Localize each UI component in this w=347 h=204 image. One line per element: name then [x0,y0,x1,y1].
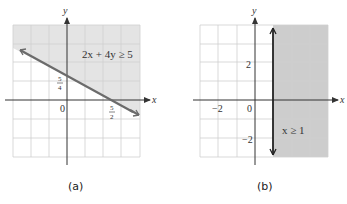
tick-label-x-neg2: −2 [212,103,223,114]
panel-a: y x 0 2x + 4y ≥ 5 5 4 5 2 (a) [5,5,157,193]
figure: y x 0 2x + 4y ≥ 5 5 4 5 2 (a) [0,0,347,204]
panel-b: y x 0 −2 2 −2 x ≥ 1 (b) [193,5,345,193]
svg-text:5: 5 [110,104,114,112]
x-axis-label-b: x [339,94,345,105]
caption-b: (b) [257,180,273,193]
shaded-region-b [273,25,328,157]
inequality-label-a: 2x + 4y ≥ 5 [82,48,133,60]
y-intercept-label-a: 5 4 [57,75,63,92]
caption-a: (a) [68,180,83,193]
inequality-label-b: x ≥ 1 [282,124,305,136]
origin-label-b: 0 [247,103,252,114]
y-axis-label-a: y [62,5,68,16]
x-axis-label-a: x [151,94,157,105]
origin-label-a: 0 [60,103,65,114]
svg-text:2: 2 [110,113,114,121]
tick-label-y-neg2: −2 [242,134,253,145]
x-intercept-label-a: 5 2 [109,104,115,121]
svg-text:4: 4 [58,84,62,92]
y-axis-label-b: y [251,5,257,16]
svg-text:5: 5 [58,75,62,83]
tick-label-y-pos2: 2 [246,59,251,70]
